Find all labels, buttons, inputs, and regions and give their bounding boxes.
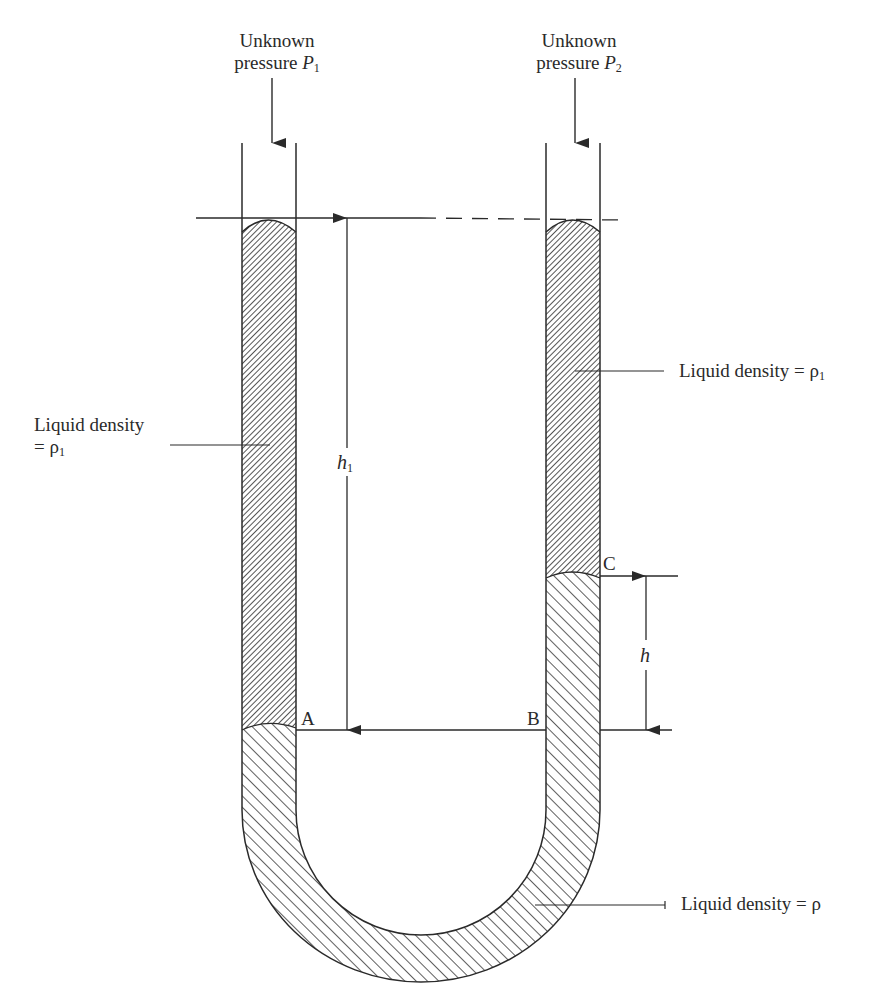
h-label: h: [640, 644, 650, 666]
p1-label: Unknown pressure P1: [222, 30, 332, 79]
bottom-liquid-label: Liquid density = ρ: [681, 893, 821, 915]
liquid-rho1-left-column: [242, 220, 296, 730]
point-a-label: A: [301, 708, 315, 730]
liquid-rho1-right-column: [546, 220, 600, 578]
p2-label: Unknown pressure P2: [524, 30, 634, 79]
right-liquid-label: Liquid density = ρ1: [679, 360, 825, 387]
h1-label: h1: [337, 451, 353, 479]
manometer-diagram: [0, 0, 889, 1004]
top-level-dashed-line: [420, 218, 625, 220]
point-b-label: B: [527, 708, 540, 730]
point-c-label: C: [603, 553, 616, 575]
left-liquid-label: Liquid density = ρ1: [34, 414, 144, 463]
